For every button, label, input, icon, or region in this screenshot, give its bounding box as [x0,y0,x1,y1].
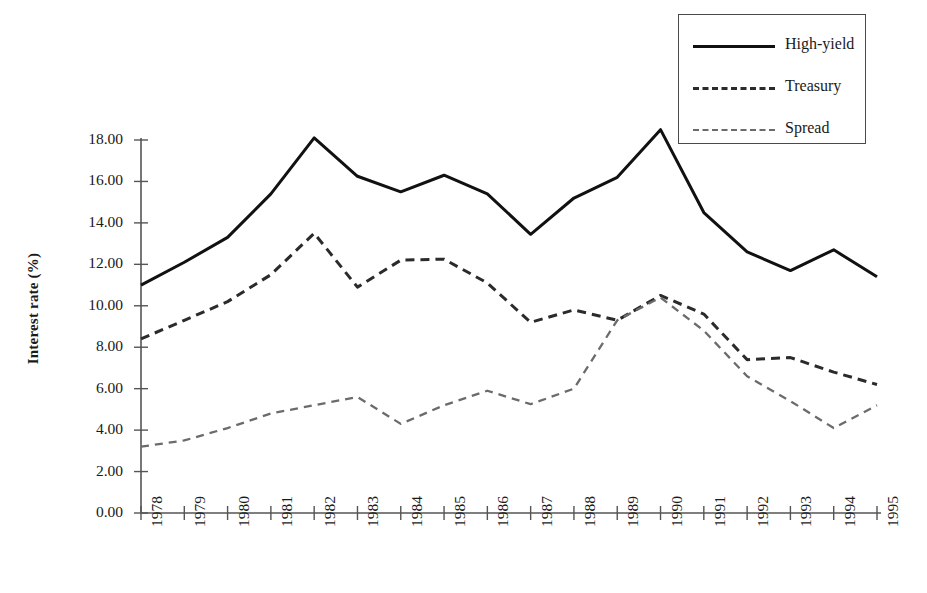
x-tick-label: 1982 [321,496,339,527]
x-tick-label: 1985 [451,496,469,527]
y-tick-label: 8.00 [59,337,123,355]
x-tick-label: 1987 [538,496,556,527]
series-line-spread [141,297,877,446]
x-tick-label: 1989 [624,496,642,527]
legend-swatch-solid-icon [693,45,775,48]
y-tick-label: 6.00 [59,379,123,397]
x-tick-label: 1979 [191,496,209,527]
legend-entry-spread: Spread [689,119,859,141]
x-tick-label: 1991 [711,496,729,527]
series-line-high-yield [141,130,877,285]
series-layer [141,130,877,447]
chart-figure: Interest rate (%) 0.002.004.006.008.0010… [0,0,927,593]
x-tick-label: 1993 [797,496,815,527]
y-tick-label: 12.00 [59,254,123,272]
legend-label-spread: Spread [785,119,829,137]
y-tick-label: 18.00 [59,130,123,148]
x-tick-label: 1983 [364,496,382,527]
x-tick-label: 1980 [235,496,253,527]
chart-legend: High-yield Treasury Spread [678,14,866,144]
y-tick-label: 4.00 [59,420,123,438]
x-tick-label: 1995 [884,496,902,527]
y-tick-label: 16.00 [59,171,123,189]
x-tick-label: 1992 [754,496,772,527]
legend-entry-high-yield: High-yield [689,35,859,57]
x-tick-label: 1990 [668,496,686,527]
y-tick-label: 14.00 [59,213,123,231]
x-tick-label: 1981 [278,496,296,527]
x-tick-label: 1984 [408,496,426,527]
y-tick-label: 0.00 [59,503,123,521]
y-tick-label: 2.00 [59,462,123,480]
series-line-treasury [141,233,877,384]
x-tick-label: 1994 [841,496,859,527]
legend-swatch-dashed-thin-icon [693,129,775,134]
x-tick-label: 1988 [581,496,599,527]
legend-entry-treasury: Treasury [689,77,859,99]
legend-swatch-dashed-bold-icon [693,87,775,93]
legend-label-high-yield: High-yield [785,35,854,53]
axis-layer [134,138,881,520]
y-tick-label: 10.00 [59,296,123,314]
x-tick-label: 1978 [148,496,166,527]
x-tick-label: 1986 [494,496,512,527]
legend-label-treasury: Treasury [785,77,841,95]
